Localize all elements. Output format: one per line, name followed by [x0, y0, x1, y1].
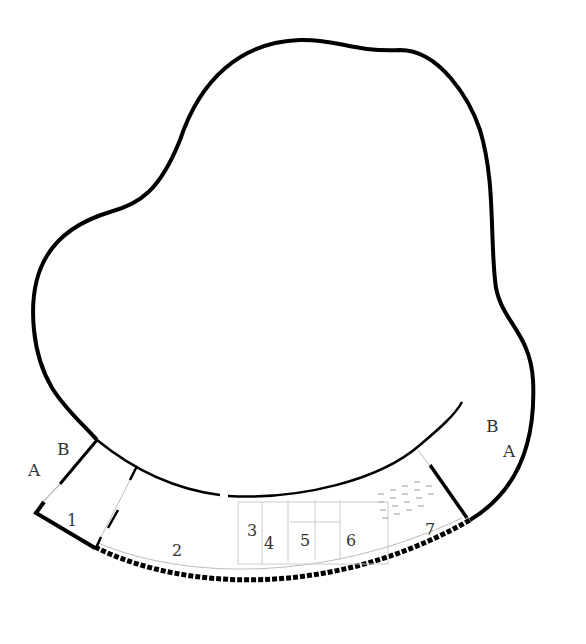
section-mark-right-B: B	[486, 416, 499, 436]
room7-light-wall	[418, 450, 430, 466]
room-number-5: 5	[300, 531, 310, 550]
outer-bottom-wall	[95, 520, 470, 580]
section-mark-left-A: A	[27, 460, 41, 480]
room-number-6: 6	[346, 531, 356, 550]
room7-wall	[430, 465, 467, 518]
band-inner-line	[98, 518, 462, 569]
room-number-7: 7	[425, 520, 435, 539]
room7-seating	[378, 482, 434, 518]
room1-room2-partition-light	[101, 480, 130, 537]
section-mark-right-A: A	[502, 441, 516, 461]
section-mark-left-B: B	[57, 439, 70, 459]
room-number-1: 1	[67, 511, 77, 530]
room-number-3: 3	[247, 521, 257, 540]
inner-arc-wall	[97, 402, 462, 497]
room1-wall-bottom	[36, 502, 95, 548]
floor-plan: A B B A 1 2 3 4 5 6 7	[0, 0, 586, 644]
room-number-2: 2	[172, 541, 182, 560]
rooms-3-6-partitions	[238, 500, 388, 564]
room-number-4: 4	[264, 534, 274, 553]
